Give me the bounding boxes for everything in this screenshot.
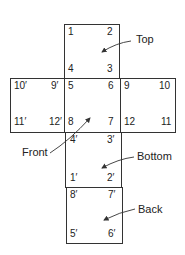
arrow-icon [50, 118, 90, 153]
leader-arrows [0, 0, 185, 255]
cube-net-diagram: 1 2 4 3 10′ 9′ 11′ 12′ 5 6 8 7 9 10 12 1… [0, 0, 185, 255]
arrow-icon [102, 41, 131, 52]
arrow-icon [104, 209, 135, 220]
arrow-icon [102, 157, 134, 168]
